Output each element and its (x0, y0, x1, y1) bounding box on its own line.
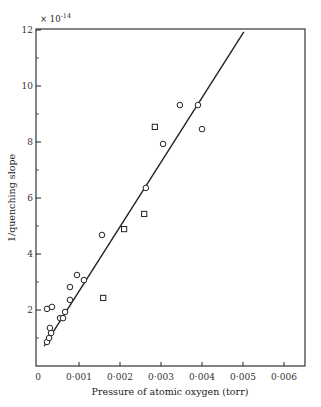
plot-border (36, 29, 305, 366)
square-data-point (122, 226, 127, 231)
x-axis-ticks: 00·0010·0020·0030·0040·0050·006 (35, 362, 297, 382)
x-tick-label: 0·006 (271, 372, 297, 382)
square-data-point (142, 211, 147, 216)
circle-data-point (199, 126, 205, 132)
circle-data-point (99, 232, 105, 238)
circle-data-point (81, 277, 87, 283)
x-tick-label: 0·004 (189, 372, 215, 382)
circle-data-point (143, 185, 149, 191)
circle-data-point (60, 315, 66, 321)
circle-data-point (160, 141, 166, 147)
x-tick-label: 0·005 (230, 372, 256, 382)
x-tick-label: 0·003 (148, 372, 174, 382)
y-tick-label: 10 (22, 81, 34, 91)
circle-data-point (177, 102, 183, 108)
circle-data-point (67, 284, 73, 290)
circle-data-point (67, 297, 73, 303)
circle-data-point (49, 304, 55, 310)
y-axis-ticks: 24681012 (22, 25, 41, 338)
y-multiplier-label: × 10-14 (40, 12, 71, 24)
x-tick-label: 0 (35, 372, 41, 382)
square-data-point (101, 295, 106, 300)
y-axis-label: 1/quenching slope (6, 154, 17, 243)
x-tick-label: 0·001 (66, 372, 92, 382)
x-axis-label: Pressure of atomic oxygen (torr) (92, 386, 249, 397)
y-tick-label: 12 (22, 25, 33, 35)
circle-data-point (74, 272, 80, 278)
x-tick-label: 0·002 (107, 372, 133, 382)
plot-frame (36, 29, 305, 366)
y-tick-label: 4 (27, 249, 33, 259)
circle-data-point (195, 102, 201, 108)
y-tick-label: 2 (27, 305, 33, 315)
y-tick-label: 6 (27, 193, 33, 203)
circle-data-point (47, 325, 53, 331)
scatter-chart: 00·0010·0020·0030·0040·0050·006 24681012… (0, 0, 321, 407)
y-tick-label: 8 (27, 137, 33, 147)
circle-data-point (62, 309, 68, 315)
square-data-point (152, 124, 157, 129)
